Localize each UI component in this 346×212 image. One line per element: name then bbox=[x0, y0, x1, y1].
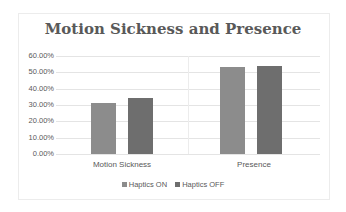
legend-item: Haptics OFF bbox=[175, 180, 224, 189]
y-tick-label: 20.00% bbox=[14, 116, 54, 125]
bar-haptics-off-presence bbox=[257, 66, 282, 154]
y-tick-label: 50.00% bbox=[14, 67, 54, 76]
x-tick-label: Presence bbox=[194, 160, 314, 169]
legend: Haptics ONHaptics OFF bbox=[0, 180, 346, 189]
legend-label: Haptics ON bbox=[129, 180, 167, 189]
legend-swatch-icon bbox=[175, 182, 180, 187]
legend-swatch-icon bbox=[122, 182, 127, 187]
x-tick-label: Motion Sickness bbox=[62, 160, 182, 169]
chart-title: Motion Sickness and Presence bbox=[0, 20, 346, 38]
y-tick-label: 40.00% bbox=[14, 84, 54, 93]
gridline bbox=[56, 154, 320, 155]
bar-haptics-on-presence bbox=[220, 67, 245, 154]
legend-label: Haptics OFF bbox=[182, 180, 224, 189]
category-divider bbox=[188, 56, 189, 154]
y-tick-label: 0.00% bbox=[14, 149, 54, 158]
y-tick-label: 30.00% bbox=[14, 100, 54, 109]
bar-haptics-on-motion-sickness bbox=[91, 103, 116, 154]
plot-area bbox=[56, 56, 320, 154]
y-tick-label: 60.00% bbox=[14, 51, 54, 60]
bar-haptics-off-motion-sickness bbox=[128, 98, 153, 154]
y-tick-label: 10.00% bbox=[14, 133, 54, 142]
legend-item: Haptics ON bbox=[122, 180, 167, 189]
